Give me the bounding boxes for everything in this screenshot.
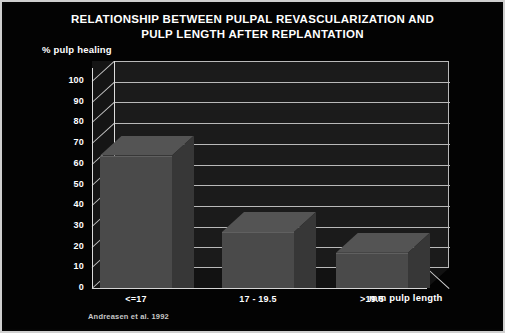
y-axis-tick-label: 40 xyxy=(54,199,84,209)
chart-canvas: RELATIONSHIP BETWEEN PULPAL REVASCULARIZ… xyxy=(4,4,501,329)
plot-area: 1009080706050403020100 <=1717 - 19.5>19.… xyxy=(4,4,501,329)
gridline xyxy=(114,82,450,83)
y-axis-tick-label: 20 xyxy=(54,241,84,251)
y-axis-tick-label: 60 xyxy=(54,158,84,168)
gridline xyxy=(114,123,450,124)
x-axis-line xyxy=(92,288,427,289)
y-axis-tick-label: 80 xyxy=(54,116,84,126)
bar-face-front xyxy=(222,232,294,288)
bar-face-side xyxy=(172,136,194,288)
gridline xyxy=(114,102,450,103)
source-citation: Andreasen et al. 1992 xyxy=(88,312,169,321)
y-axis-tick-label: 70 xyxy=(54,137,84,147)
y-axis-tick-label: 0 xyxy=(54,282,84,292)
x-axis-category-label: <=17 xyxy=(82,294,190,304)
y-axis-tick-label: 50 xyxy=(54,179,84,189)
bar xyxy=(222,212,316,288)
y-axis-tick-label: 100 xyxy=(54,75,84,85)
x-axis-label: mm pulp length xyxy=(369,292,443,303)
y-axis-tick-label: 30 xyxy=(54,220,84,230)
y-axis-tick-label: 10 xyxy=(54,261,84,271)
x-axis-category-label: 17 - 19.5 xyxy=(204,294,312,304)
bar xyxy=(100,136,194,288)
y-axis-line-front xyxy=(92,68,93,289)
bar-face-front xyxy=(336,253,408,288)
bar-face-front xyxy=(100,156,172,288)
chart-screenshot: RELATIONSHIP BETWEEN PULPAL REVASCULARIZ… xyxy=(0,0,505,333)
bar xyxy=(336,233,430,288)
y-axis-tick-label: 90 xyxy=(54,96,84,106)
